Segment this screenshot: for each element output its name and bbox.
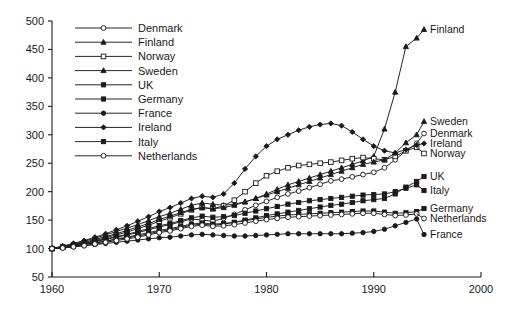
data-point-marker bbox=[243, 189, 248, 194]
data-point-marker bbox=[382, 196, 386, 200]
y-axis-tick-label: 200 bbox=[26, 186, 44, 198]
legend-item-label: Ireland bbox=[138, 121, 172, 133]
data-point-marker bbox=[200, 214, 204, 218]
legend-item-label: Finland bbox=[138, 36, 174, 48]
data-point-marker bbox=[60, 246, 65, 251]
data-point-marker bbox=[168, 235, 172, 239]
end-label-text: UK bbox=[430, 170, 445, 182]
x-axis-tick-label: 1980 bbox=[254, 283, 278, 295]
data-point-marker bbox=[101, 140, 105, 144]
data-point-marker bbox=[296, 189, 301, 194]
y-axis-tick-label: 350 bbox=[26, 100, 44, 112]
data-point-marker bbox=[339, 158, 344, 163]
data-point-marker bbox=[382, 192, 386, 196]
data-point-marker bbox=[361, 193, 365, 197]
data-point-marker bbox=[393, 213, 398, 218]
data-point-marker bbox=[286, 232, 290, 236]
legend-item-label: Denmark bbox=[138, 22, 183, 34]
data-point-marker bbox=[264, 217, 269, 222]
data-point-marker bbox=[50, 246, 55, 251]
x-axis-tick-label: 1970 bbox=[147, 283, 171, 295]
data-point-marker bbox=[361, 230, 365, 234]
data-point-marker bbox=[307, 199, 311, 203]
data-point-marker bbox=[329, 203, 333, 207]
data-point-marker bbox=[404, 213, 409, 218]
data-point-marker bbox=[318, 161, 323, 166]
y-axis-tick-label: 50 bbox=[32, 271, 44, 283]
data-point-marker bbox=[264, 173, 269, 178]
data-point-marker bbox=[211, 233, 215, 237]
data-point-marker bbox=[114, 238, 119, 243]
data-point-marker bbox=[318, 198, 322, 202]
y-axis-tick-label: 150 bbox=[26, 214, 44, 226]
data-point-marker bbox=[422, 206, 426, 210]
data-point-marker bbox=[339, 195, 343, 199]
data-point-marker bbox=[253, 203, 258, 208]
data-point-marker bbox=[422, 131, 427, 136]
data-point-marker bbox=[350, 174, 355, 179]
data-point-marker bbox=[286, 202, 290, 206]
data-point-marker bbox=[136, 229, 140, 233]
x-axis-tick-label: 1990 bbox=[362, 283, 386, 295]
data-point-marker bbox=[275, 169, 280, 174]
end-label-text: Sweden bbox=[430, 115, 468, 127]
data-point-marker bbox=[71, 244, 76, 249]
end-label-text: Finland bbox=[430, 23, 465, 35]
legend-item-label: UK bbox=[138, 79, 154, 91]
y-axis-tick-label: 500 bbox=[26, 15, 44, 27]
data-point-marker bbox=[82, 243, 87, 248]
data-point-marker bbox=[393, 224, 397, 228]
data-point-marker bbox=[404, 186, 408, 190]
data-point-marker bbox=[422, 151, 427, 156]
data-point-marker bbox=[125, 236, 130, 241]
data-point-marker bbox=[275, 204, 279, 208]
data-point-marker bbox=[253, 181, 258, 186]
end-label-text: Ireland bbox=[430, 137, 462, 149]
data-point-marker bbox=[275, 195, 280, 200]
data-point-marker bbox=[350, 156, 355, 161]
data-point-marker bbox=[361, 211, 366, 216]
line-chart: 50100150200250300350400450500 1960197019… bbox=[0, 0, 512, 312]
data-point-marker bbox=[307, 207, 311, 211]
data-point-marker bbox=[179, 219, 183, 223]
data-point-marker bbox=[318, 232, 322, 236]
legend-item-label: Norway bbox=[138, 50, 176, 62]
legend-item-label: Italy bbox=[138, 136, 159, 148]
data-point-marker bbox=[232, 213, 236, 217]
data-point-marker bbox=[101, 83, 105, 87]
data-point-marker bbox=[296, 163, 301, 168]
data-point-marker bbox=[243, 211, 247, 215]
data-point-marker bbox=[286, 215, 291, 220]
data-point-marker bbox=[275, 216, 280, 221]
data-point-marker bbox=[221, 233, 225, 237]
data-point-marker bbox=[339, 232, 343, 236]
data-point-marker bbox=[328, 178, 333, 183]
data-point-marker bbox=[189, 224, 194, 229]
data-point-marker bbox=[189, 216, 193, 220]
data-point-marker bbox=[286, 192, 291, 197]
data-point-marker bbox=[329, 196, 333, 200]
data-point-marker bbox=[157, 230, 162, 235]
data-point-marker bbox=[339, 177, 344, 182]
data-point-marker bbox=[350, 231, 354, 235]
data-point-marker bbox=[275, 232, 279, 236]
data-point-marker bbox=[168, 221, 172, 225]
data-point-marker bbox=[101, 111, 105, 115]
data-point-marker bbox=[382, 227, 386, 231]
x-axis-tick-label: 1960 bbox=[40, 283, 64, 295]
y-axis-tick-label: 450 bbox=[26, 43, 44, 55]
data-point-marker bbox=[318, 213, 323, 218]
chart-root: 50100150200250300350400450500 1960197019… bbox=[0, 0, 512, 312]
data-point-marker bbox=[329, 160, 334, 165]
data-point-marker bbox=[339, 212, 344, 217]
data-point-marker bbox=[393, 190, 397, 194]
data-point-marker bbox=[307, 214, 312, 219]
data-point-marker bbox=[200, 223, 205, 228]
legend-item-label: France bbox=[138, 107, 172, 119]
data-point-marker bbox=[200, 232, 204, 236]
data-point-marker bbox=[253, 219, 258, 224]
data-point-marker bbox=[179, 234, 183, 238]
data-point-marker bbox=[146, 227, 150, 231]
data-point-marker bbox=[264, 233, 268, 237]
data-point-marker bbox=[350, 200, 354, 204]
